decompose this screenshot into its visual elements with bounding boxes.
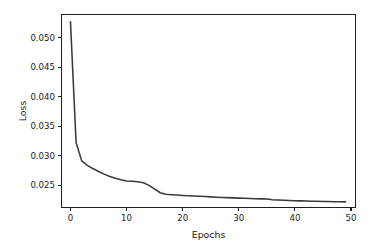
loss-chart-canvas: 01020304050 0.0250.0300.0350.0400.0450.0… (0, 0, 370, 250)
x-axis-title: Epochs (192, 229, 226, 240)
y-tick-label: 0.040 (30, 92, 55, 102)
x-tick-label: 30 (233, 213, 244, 223)
x-tick-label: 10 (121, 213, 132, 223)
y-axis-title: Loss (17, 101, 28, 122)
y-tick-label: 0.025 (30, 180, 55, 190)
y-tick-label: 0.030 (30, 151, 55, 161)
x-tick-label: 40 (289, 213, 300, 223)
y-tick-label: 0.035 (30, 121, 55, 131)
y-tick-label: 0.045 (30, 62, 55, 72)
x-tick-label: 20 (177, 213, 188, 223)
y-tick-label: 0.050 (30, 33, 55, 43)
x-tick-label: 50 (346, 213, 357, 223)
x-tick-label: 0 (68, 213, 73, 223)
loss-curve-figure: 01020304050 0.0250.0300.0350.0400.0450.0… (0, 0, 370, 250)
